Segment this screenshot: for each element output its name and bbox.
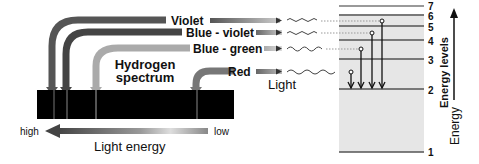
spectrum-bar bbox=[37, 90, 234, 119]
wave-violet bbox=[287, 19, 317, 22]
label-red: Red bbox=[228, 65, 251, 79]
emission-point-violet bbox=[380, 19, 384, 23]
light-label: Light bbox=[268, 77, 297, 92]
wave-blue-green bbox=[287, 47, 322, 51]
light-energy-label: Light energy bbox=[94, 139, 166, 154]
energy-axis-label: Energy bbox=[448, 107, 462, 145]
label-blue-violet: Blue - violet bbox=[186, 26, 254, 40]
light-energy-scale: high low Light energy bbox=[20, 124, 230, 154]
level-number-1: 1 bbox=[428, 147, 434, 158]
light-waves bbox=[287, 19, 335, 75]
level-number-3: 3 bbox=[428, 55, 434, 66]
high-label: high bbox=[20, 126, 39, 137]
label-blue-green: Blue - green bbox=[193, 42, 262, 56]
emission-point-blue-violet bbox=[370, 31, 374, 35]
level-number-6: 6 bbox=[428, 11, 434, 22]
violet-bar bbox=[210, 18, 280, 23]
wave-blue-violet bbox=[287, 32, 317, 35]
energy-levels-axis-label: Energy levels bbox=[438, 37, 450, 108]
emission-point-red bbox=[349, 70, 353, 74]
energy-axis: Energy bbox=[448, 8, 462, 145]
title-line-2: spectrum bbox=[116, 70, 175, 85]
level-number-5: 5 bbox=[428, 22, 434, 33]
level-number-4: 4 bbox=[428, 36, 434, 47]
wave-red bbox=[287, 70, 335, 74]
emission-point-blue-green bbox=[359, 47, 363, 51]
arrow-up-icon bbox=[450, 8, 458, 18]
level-number-2: 2 bbox=[428, 85, 434, 96]
light-energy-gradient-bar bbox=[58, 128, 208, 134]
hydrogen-spectrum-diagram: 7 6 5 4 3 2 1 Energy levels Energy bbox=[0, 0, 479, 164]
low-label: low bbox=[214, 126, 230, 137]
arrow-left-icon bbox=[45, 124, 60, 138]
energy-level-diagram: 7 6 5 4 3 2 1 Energy levels bbox=[339, 1, 450, 158]
